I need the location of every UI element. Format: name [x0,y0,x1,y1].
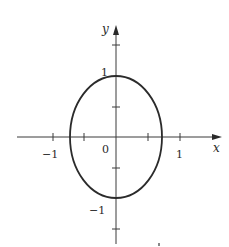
y-axis-label: y [101,22,109,36]
x-tick-label-pos1: 1 [176,148,183,161]
origin-label: 0 [102,143,109,156]
y-tick-label-pos1: 1 [101,66,108,79]
x-axis [17,133,222,141]
y-axis-arrow-icon [113,25,119,35]
x-axis-arrow-icon [212,134,222,140]
x-tick-label-neg1: −1 [42,148,58,161]
x-axis-label: x [213,141,220,155]
ellipse-diagram: x y 0 −1 1 1 −1 [0,0,229,247]
y-tick-label-neg1: −1 [89,204,105,217]
print-artifact [158,243,160,246]
y-axis [112,25,120,244]
